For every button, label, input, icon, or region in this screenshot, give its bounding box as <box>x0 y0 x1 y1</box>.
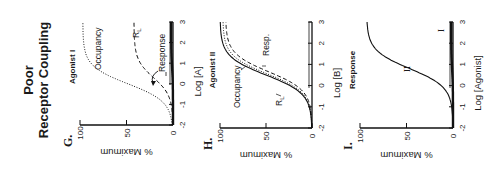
panel-h: 050100-2-10123Log [B]% MaximumH.Agonist … <box>201 19 342 161</box>
panel-label: G. <box>61 135 75 147</box>
figure-canvas: Poor Receptor Coupling 050100-2-10123Log… <box>0 0 502 175</box>
x-tick-label: -1 <box>317 103 326 111</box>
annotation-resp: Resp. <box>261 34 271 56</box>
y-tick-label: 0 <box>308 133 317 138</box>
annotation-response: Response <box>157 33 167 72</box>
x-tick-label: 3 <box>458 19 467 24</box>
y-axis-label: % Maximum <box>380 150 432 161</box>
annotation-rl: RL <box>274 96 285 106</box>
annotation-agonist-ii: II <box>402 66 412 72</box>
rl-leader <box>276 94 281 96</box>
y-axis-label: % Maximum <box>240 150 292 161</box>
x-axis-label: Log [Agonist] <box>472 55 483 110</box>
panel-g: 050100-2-10123Log [A]% MaximumG.Agonist … <box>61 19 203 158</box>
annotation-occupancy: Occupancy <box>93 27 103 70</box>
y-tick-label: 100 <box>356 129 365 143</box>
x-tick-label: -2 <box>317 124 326 132</box>
x-tick-label: -1 <box>458 103 467 111</box>
x-axis-label: Log [B] <box>331 68 342 98</box>
panel-title: Response <box>348 50 357 89</box>
panel-label: I. <box>341 142 355 150</box>
x-tick-label: 0 <box>317 83 326 88</box>
title-line-1: Poor <box>21 65 36 95</box>
title-line-2: Receptor Coupling <box>36 22 51 138</box>
y-tick-label: 100 <box>216 129 225 143</box>
panel-label: H. <box>201 138 215 150</box>
y-tick-label: 0 <box>449 133 458 138</box>
panel-title: Agonist II <box>208 52 217 88</box>
x-tick-label: -1 <box>178 100 187 108</box>
x-tick-label: 3 <box>178 19 187 24</box>
x-tick-label: 2 <box>178 40 187 45</box>
x-tick-label: 1 <box>458 62 467 67</box>
x-tick-label: 2 <box>317 40 326 45</box>
rl-label-sub: L <box>279 96 285 100</box>
arrow-head-icon <box>151 81 156 86</box>
y-tick-label: 100 <box>76 126 85 140</box>
series-line-ii <box>367 22 453 128</box>
annotation-agonist-i: I <box>436 29 446 32</box>
panel-i: 050100-2-10123Log [Agonist]% MaximumI.Re… <box>341 19 483 161</box>
x-tick-label: 0 <box>178 81 187 86</box>
y-tick-label: 50 <box>262 131 271 140</box>
x-tick-label: 1 <box>178 60 187 65</box>
panel-title: Agonist I <box>68 50 77 84</box>
annotation-occupancy: Occupancy <box>232 65 242 108</box>
rl-label-sub: L <box>136 28 142 32</box>
annotation-rl: RL <box>131 28 142 38</box>
x-tick-label: 0 <box>458 83 467 88</box>
x-tick-label: 3 <box>317 19 326 24</box>
figure: Poor Receptor Coupling 050100-2-10123Log… <box>0 0 502 175</box>
y-tick-label: 50 <box>123 128 132 137</box>
y-axis-label: % Maximum <box>100 147 152 158</box>
x-tick-label: -2 <box>458 124 467 132</box>
figure-title: Poor Receptor Coupling <box>21 22 51 138</box>
x-tick-label: 1 <box>317 62 326 67</box>
x-tick-label: 2 <box>458 40 467 45</box>
x-tick-label: -2 <box>178 121 187 129</box>
y-tick-label: 50 <box>403 131 412 140</box>
x-axis-label: Log [A] <box>192 66 203 96</box>
y-tick-label: 0 <box>169 130 178 135</box>
